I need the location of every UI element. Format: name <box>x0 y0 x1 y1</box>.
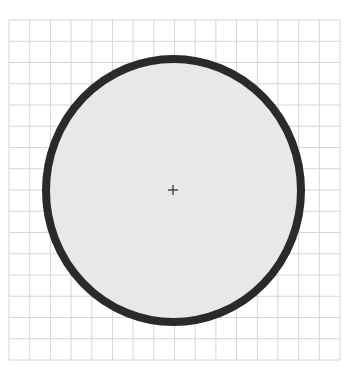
grid-circle-figure <box>0 0 358 379</box>
